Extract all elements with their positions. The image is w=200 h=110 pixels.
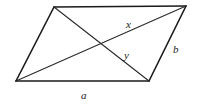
diagonal-label-x: x (125, 18, 131, 30)
parallelogram-diagonals (16, 6, 186, 81)
parallelogram-diagram: x y b a (0, 0, 200, 110)
side-label-a: a (81, 89, 87, 101)
diagonal-y (54, 7, 149, 81)
side-top-left-to-top-right (54, 6, 186, 7)
side-top-right-to-bottom-right (149, 6, 186, 81)
side-bottom-left-to-top-left (16, 7, 54, 81)
side-label-b: b (173, 43, 179, 55)
diagonal-label-y: y (123, 49, 129, 61)
